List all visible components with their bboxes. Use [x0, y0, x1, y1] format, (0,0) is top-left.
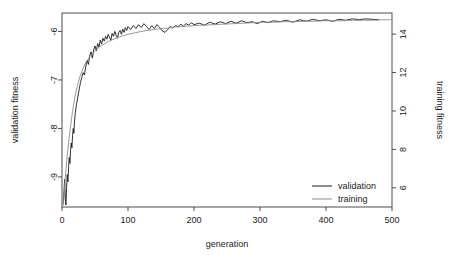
x-tick-label: 0: [59, 215, 64, 225]
y-axis-title-right: training fitness: [435, 81, 445, 140]
x-tick-label: 400: [318, 215, 333, 225]
y-axis-title-left: validation fitness: [10, 76, 20, 143]
y-tick-label-right: 8: [398, 147, 408, 152]
x-tick-label: 200: [186, 215, 201, 225]
x-tick-label: 500: [384, 215, 399, 225]
y-tick-label-right: 14: [398, 29, 408, 39]
chart-background: [0, 0, 455, 278]
line-chart: 0100200300400500 -6-7-8-9 14121086 valid…: [0, 0, 455, 278]
legend-label-validation: validation: [338, 181, 376, 191]
y-tick-label-left: -8: [49, 124, 59, 132]
chart-figure: 0100200300400500 -6-7-8-9 14121086 valid…: [0, 0, 455, 278]
y-tick-label-right: 12: [398, 68, 408, 78]
y-tick-label-right: 10: [398, 106, 408, 116]
x-tick-label: 100: [120, 215, 135, 225]
legend-label-training: training: [338, 194, 368, 204]
x-axis-title: generation: [206, 239, 249, 249]
y-tick-label-left: -6: [49, 27, 59, 35]
y-tick-label-left: -7: [49, 76, 59, 84]
x-tick-label: 300: [252, 215, 267, 225]
y-tick-label-right: 6: [398, 185, 408, 190]
y-tick-label-left: -9: [49, 173, 59, 181]
